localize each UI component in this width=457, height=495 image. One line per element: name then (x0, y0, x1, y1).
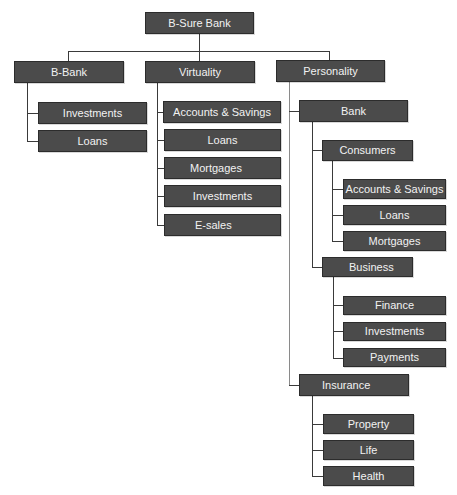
connector (157, 140, 164, 141)
connector (27, 113, 38, 114)
node-label: Investments (63, 108, 122, 119)
node-label: Bank (341, 106, 366, 117)
connector (199, 33, 200, 51)
node-label: Accounts & Savings (173, 107, 271, 118)
node-label: Payments (370, 352, 419, 363)
node-consumers-mortgages[interactable]: Mortgages (343, 231, 446, 251)
node-label: Accounts & Savings (346, 184, 444, 195)
node-virtuality-e-sales[interactable]: E-sales (164, 214, 281, 236)
connector (312, 122, 313, 267)
node-personality[interactable]: Personality (276, 60, 385, 82)
connector (289, 81, 290, 386)
connector (289, 385, 299, 386)
connector (289, 111, 299, 112)
node-virtuality[interactable]: Virtuality (145, 61, 255, 83)
node-label: Life (360, 445, 378, 456)
node-b-bank[interactable]: B-Bank (14, 61, 124, 83)
node-label: Loans (78, 136, 108, 147)
node-insurance-life[interactable]: Life (323, 440, 414, 460)
connector (333, 331, 343, 332)
node-label: Personality (303, 66, 357, 77)
connector (68, 51, 69, 61)
node-b-bank-loans[interactable]: Loans (38, 130, 147, 152)
node-label: Mortgages (369, 236, 421, 247)
node-label: Consumers (339, 145, 395, 156)
connector (157, 196, 164, 197)
connector (199, 51, 200, 61)
connector (333, 305, 343, 306)
node-virtuality-accounts-savings[interactable]: Accounts & Savings (163, 101, 281, 123)
connector (332, 215, 343, 216)
node-consumers-loans[interactable]: Loans (343, 205, 446, 225)
node-label: Health (353, 471, 385, 482)
node-virtuality-investments[interactable]: Investments (164, 185, 281, 207)
node-b-sure-bank[interactable]: B-Sure Bank (145, 12, 254, 34)
node-label: Loans (208, 135, 238, 146)
org-chart: B-Sure Bank B-Bank Virtuality Personalit… (0, 0, 457, 495)
node-label: Investments (193, 191, 252, 202)
node-insurance[interactable]: Insurance (299, 374, 409, 396)
node-label: Property (348, 419, 390, 430)
node-consumers[interactable]: Consumers (322, 140, 413, 161)
connector (157, 225, 164, 226)
node-label: Virtuality (179, 67, 221, 78)
connector (332, 189, 343, 190)
connector (329, 51, 330, 60)
node-insurance-property[interactable]: Property (323, 414, 414, 434)
connector (332, 241, 343, 242)
node-business-finance[interactable]: Finance (343, 296, 446, 315)
connector (312, 267, 322, 268)
node-label: Business (349, 262, 394, 273)
connector (312, 150, 322, 151)
connector (333, 277, 334, 358)
connector (312, 396, 313, 476)
connector (312, 424, 323, 425)
node-label: Loans (380, 210, 410, 221)
node-consumers-accounts-savings[interactable]: Accounts & Savings (343, 179, 446, 199)
node-label: Investments (365, 326, 424, 337)
node-label: E-sales (195, 220, 232, 231)
node-label: B-Bank (51, 67, 87, 78)
node-personality-bank[interactable]: Bank (299, 100, 408, 122)
connector (27, 83, 28, 141)
node-label: Finance (375, 300, 414, 311)
node-label: Insurance (322, 380, 370, 391)
connector (27, 141, 38, 142)
connector (157, 168, 164, 169)
connector (312, 450, 323, 451)
node-b-bank-investments[interactable]: Investments (38, 102, 147, 124)
connector (332, 161, 333, 241)
node-virtuality-loans[interactable]: Loans (164, 129, 281, 151)
connector (333, 358, 343, 359)
node-business-investments[interactable]: Investments (343, 322, 446, 341)
node-business[interactable]: Business (322, 257, 413, 277)
node-virtuality-mortgages[interactable]: Mortgages (164, 157, 281, 179)
node-business-payments[interactable]: Payments (343, 348, 446, 367)
node-label: Mortgages (190, 163, 242, 174)
connector (157, 82, 158, 225)
node-label: B-Sure Bank (168, 18, 230, 29)
node-insurance-health[interactable]: Health (323, 466, 414, 486)
connector (312, 476, 323, 477)
